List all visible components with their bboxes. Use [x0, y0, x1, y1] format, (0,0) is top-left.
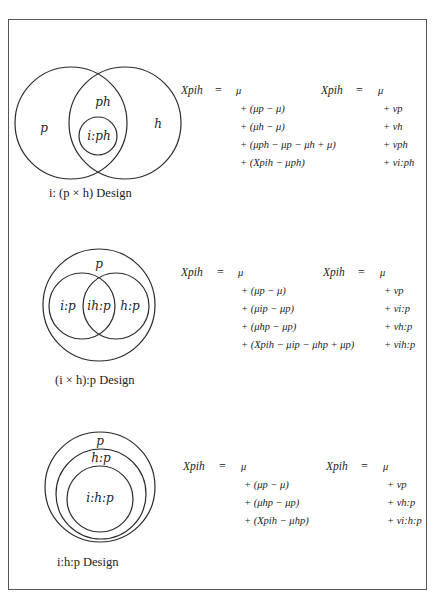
model2-first: μ — [378, 85, 383, 96]
model1-term: + (μip − μp) — [241, 303, 294, 314]
model2-eq: = — [356, 83, 363, 98]
model1-term: + (μhp − μp) — [241, 321, 296, 332]
label-p: p — [40, 121, 48, 135]
model2-term: + νh — [383, 121, 403, 132]
model1-term: + (Xpih − μhp) — [244, 515, 309, 526]
model2-term: + νi:ph — [383, 157, 414, 168]
model2-lhs: Xpih — [323, 266, 345, 278]
model2-term: + νh:p — [384, 321, 412, 332]
label-i-p: i:p — [60, 299, 76, 313]
model2-term: + νph — [383, 139, 408, 150]
model1-term: + (μh − μ) — [240, 121, 285, 132]
model1-eq: = — [219, 459, 226, 474]
model1-eq: = — [215, 83, 222, 98]
model1-term: + (μph − μp − μh + μ) — [240, 139, 336, 150]
model1-term: + (μhp − μp) — [244, 497, 299, 508]
model2-lhs: Xpih — [321, 84, 343, 96]
model1-first: μ — [236, 85, 241, 96]
model2-term: + νh:p — [387, 497, 415, 508]
model1-eq: = — [217, 265, 224, 280]
model1-term: + (μp − μ) — [240, 103, 285, 114]
label-h-p: h:p — [120, 299, 139, 313]
caption-design-1: i: (p × h) Design — [49, 186, 132, 201]
model2-first: μ — [383, 461, 388, 472]
model1-term: + (Xpih − μph) — [240, 157, 305, 168]
label-p: p — [96, 434, 104, 448]
label-p: p — [95, 257, 103, 271]
model2-term: + νp — [387, 479, 407, 490]
model2-eq: = — [358, 265, 365, 280]
model2-term: + νi:h:p — [387, 515, 422, 526]
model1-lhs: Xpih — [181, 84, 203, 96]
model1-lhs: Xpih — [183, 460, 205, 472]
model1-term: + (μp − μ) — [241, 285, 286, 296]
label-i-ph: i:ph — [87, 129, 110, 143]
model2-first: μ — [380, 267, 385, 278]
circle-p — [15, 67, 127, 179]
model1-first: μ — [241, 461, 246, 472]
model2-term: + νih:p — [384, 339, 415, 350]
model1-term: + (Xpih − μip − μhp + μp) — [241, 339, 354, 350]
model1-term: + (μp − μ) — [244, 479, 289, 490]
model2-term: + νi:p — [384, 303, 410, 314]
model2-term: + νp — [383, 103, 403, 114]
model2-term: + νp — [384, 285, 404, 296]
model1-first: μ — [238, 267, 243, 278]
label-h-p: h:p — [91, 451, 110, 465]
caption-design-3: i:h:p Design — [57, 555, 118, 570]
model2-eq: = — [361, 459, 368, 474]
label-h: h — [154, 117, 162, 131]
label-ih-p: ih:p — [87, 299, 110, 313]
circle-h — [69, 67, 181, 179]
caption-design-2: (i × h):p Design — [55, 373, 135, 388]
model1-lhs: Xpih — [181, 266, 203, 278]
model2-lhs: Xpih — [326, 460, 348, 472]
label-i-h-p: i:h:p — [86, 491, 113, 505]
label-ph: ph — [95, 95, 110, 109]
